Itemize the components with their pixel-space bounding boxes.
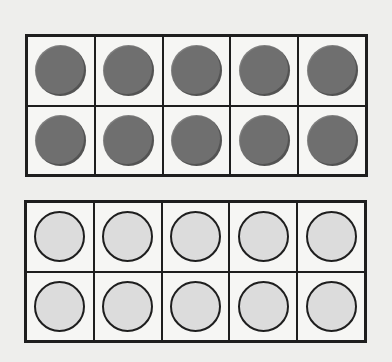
- empty-counter-icon: [102, 211, 153, 262]
- ten-frame-cell: [163, 36, 231, 106]
- ten-frame-cell: [297, 272, 365, 342]
- ten-frame-cell: [94, 202, 162, 272]
- empty-counter-icon: [306, 211, 357, 262]
- filled-counter-icon: [35, 115, 86, 166]
- ten-frame-cell: [298, 106, 366, 176]
- ten-frame-cell: [94, 272, 162, 342]
- ten-frame-cell: [26, 202, 94, 272]
- filled-counter-icon: [239, 115, 290, 166]
- filled-counter-icon: [103, 45, 154, 96]
- empty-counter-icon: [238, 281, 289, 332]
- ten-frame-cell: [95, 106, 163, 176]
- filled-counter-icon: [307, 45, 358, 96]
- ten-frame-bottom: [24, 200, 367, 343]
- filled-counter-icon: [35, 45, 86, 96]
- empty-counter-icon: [34, 211, 85, 262]
- ten-frame-cell: [162, 272, 230, 342]
- ten-frame-cell: [163, 106, 231, 176]
- ten-frame-cell: [297, 202, 365, 272]
- ten-frame-cell: [95, 36, 163, 106]
- filled-counter-icon: [239, 45, 290, 96]
- ten-frame-cell: [230, 106, 298, 176]
- empty-counter-icon: [170, 211, 221, 262]
- ten-frame-cell: [26, 272, 94, 342]
- ten-frame-cell: [162, 202, 230, 272]
- empty-counter-icon: [238, 211, 289, 262]
- ten-frame-cell: [229, 202, 297, 272]
- ten-frame-cell: [230, 36, 298, 106]
- empty-counter-icon: [34, 281, 85, 332]
- filled-counter-icon: [171, 115, 222, 166]
- filled-counter-icon: [307, 115, 358, 166]
- ten-frame-top: [25, 34, 368, 177]
- ten-frame-cell: [27, 36, 95, 106]
- filled-counter-icon: [171, 45, 222, 96]
- ten-frame-cell: [298, 36, 366, 106]
- empty-counter-icon: [306, 281, 357, 332]
- ten-frame-cell: [27, 106, 95, 176]
- empty-counter-icon: [170, 281, 221, 332]
- filled-counter-icon: [103, 115, 154, 166]
- empty-counter-icon: [102, 281, 153, 332]
- ten-frame-cell: [229, 272, 297, 342]
